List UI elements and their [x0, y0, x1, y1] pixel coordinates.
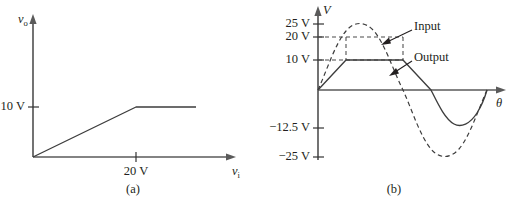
panel-b-x-axis-label: θ	[496, 96, 502, 110]
panel-a-transfer-curve	[33, 107, 196, 157]
figure-root: vo vi 10 V 20 V (a) V θ	[0, 0, 514, 203]
panel-b-y-tick-label-neg12p5v: −12.5 V	[269, 120, 310, 134]
panel-a-y-axis-arrowhead	[29, 14, 36, 24]
panel-a-y-axis-label: vo	[18, 12, 28, 28]
panel-b: V θ 25 V 20 V 10 V −12.5 V −25 V	[257, 0, 514, 203]
panel-b-y-axis-arrowhead	[314, 6, 321, 16]
panel-b-y-tick-label-neg25v: −25 V	[279, 149, 310, 163]
panel-a-x-axis-label: vi	[232, 164, 241, 180]
panel-b-plot: V θ 25 V 20 V 10 V −12.5 V −25 V	[257, 0, 514, 203]
panel-b-annotation-input: Input	[414, 19, 441, 33]
panel-b-x-axis-arrowhead	[496, 86, 506, 93]
panel-b-leader-input	[387, 30, 412, 42]
panel-b-y-tick-label-20v: 20 V	[286, 29, 310, 43]
panel-a: vo vi 10 V 20 V (a)	[0, 0, 257, 203]
panel-b-caption: (b)	[387, 182, 402, 196]
panel-a-caption: (a)	[126, 182, 140, 196]
panel-a-plot: vo vi 10 V 20 V (a)	[0, 0, 257, 203]
panel-b-y-tick-label-25v: 25 V	[286, 16, 310, 30]
panel-a-x-tick-label-20v: 20 V	[124, 164, 148, 178]
panel-b-y-axis-label: V	[323, 3, 332, 17]
panel-b-annotation-output: Output	[414, 50, 449, 64]
panel-b-y-tick-label-10v: 10 V	[286, 52, 310, 66]
panel-b-leader-input-arrowhead	[381, 38, 391, 46]
panel-a-x-axis-arrowhead	[226, 153, 236, 160]
panel-b-output-waveform	[318, 60, 487, 126]
panel-a-y-tick-label-10v: 10 V	[1, 99, 25, 113]
